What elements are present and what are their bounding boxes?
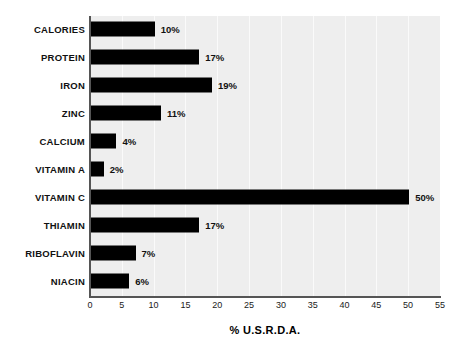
bar <box>91 274 129 289</box>
bar-row: VITAMIN A 2% <box>0 156 464 182</box>
bar-row: CALCIUM 4% <box>0 128 464 154</box>
bar-row: RIBOFLAVIN 7% <box>0 240 464 266</box>
category-label: NIACIN <box>51 276 85 287</box>
bar <box>91 22 155 37</box>
bar-row: ZINC 11% <box>0 100 464 126</box>
value-label: 4% <box>122 136 136 147</box>
bar-row: CALORIES 10% <box>0 16 464 42</box>
x-tick: 25 <box>244 300 254 310</box>
bar-row: NIACIN 6% <box>0 268 464 294</box>
x-tick: 20 <box>212 300 222 310</box>
category-label: ZINC <box>62 108 85 119</box>
bar <box>91 190 409 205</box>
bar <box>91 50 199 65</box>
x-tick: 45 <box>371 300 381 310</box>
x-tick: 40 <box>339 300 349 310</box>
category-label: CALCIUM <box>39 136 85 147</box>
x-tick: 10 <box>149 300 159 310</box>
value-label: 6% <box>135 276 149 287</box>
x-tick: 30 <box>276 300 286 310</box>
value-label: 19% <box>218 80 237 91</box>
bar-chart: CALORIES 10% PROTEIN 17% IRON 19% ZINC 1… <box>0 0 464 354</box>
value-label: 7% <box>142 248 156 259</box>
value-label: 11% <box>167 108 186 119</box>
category-label: RIBOFLAVIN <box>25 248 85 259</box>
bar-row: THIAMIN 17% <box>0 212 464 238</box>
category-label: VITAMIN A <box>35 164 85 175</box>
x-axis-title: % U.S.R.D.A. <box>90 324 440 336</box>
value-label: 50% <box>415 192 434 203</box>
x-axis-ticks: 0 5 10 15 20 25 30 35 40 45 50 55 <box>0 300 464 316</box>
bar <box>91 218 199 233</box>
bar <box>91 162 104 177</box>
bar <box>91 246 136 261</box>
bar-row: PROTEIN 17% <box>0 44 464 70</box>
category-label: CALORIES <box>34 24 85 35</box>
bar-rows: CALORIES 10% PROTEIN 17% IRON 19% ZINC 1… <box>0 16 464 297</box>
bar-row: VITAMIN C 50% <box>0 184 464 210</box>
value-label: 17% <box>205 220 224 231</box>
category-label: PROTEIN <box>41 52 85 63</box>
value-label: 2% <box>110 164 124 175</box>
x-tick: 55 <box>435 300 445 310</box>
x-tick: 15 <box>180 300 190 310</box>
bar <box>91 106 161 121</box>
x-tick: 5 <box>119 300 124 310</box>
value-label: 17% <box>205 52 224 63</box>
x-tick: 0 <box>87 300 92 310</box>
category-label: IRON <box>60 80 85 91</box>
bar <box>91 78 212 93</box>
category-label: VITAMIN C <box>35 192 85 203</box>
x-tick: 50 <box>403 300 413 310</box>
x-tick: 35 <box>308 300 318 310</box>
bar-row: IRON 19% <box>0 72 464 98</box>
value-label: 10% <box>161 24 180 35</box>
category-label: THIAMIN <box>44 220 85 231</box>
bar <box>91 134 116 149</box>
